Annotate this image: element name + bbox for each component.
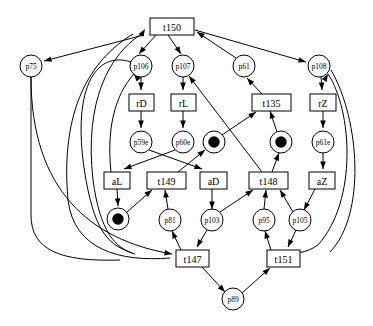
arrowhead [245,190,253,196]
arrowhead [194,164,202,169]
arc-line [44,35,144,61]
token-dot [112,213,123,224]
transition-node-aL[interactable]: aL [104,172,130,189]
transition-node-t148[interactable]: t148 [249,172,288,189]
arc [138,111,144,128]
transition-node-t150[interactable]: t150 [150,18,194,35]
place-label: p61 [238,62,250,71]
place-node-p81[interactable]: p81 [159,209,181,231]
arc [220,190,253,212]
arrowhead [138,83,144,91]
transition-node-t147[interactable]: t147 [176,250,209,267]
place-node-p103[interactable]: p103 [201,209,223,231]
transition-node-aD[interactable]: aD [200,172,227,189]
arrowhead [298,57,306,62]
arc [265,231,271,250]
arc [320,153,326,169]
transition-label: t149 [158,176,176,187]
arc [139,35,156,54]
arc [180,111,186,128]
transition-node-t135[interactable]: t135 [252,94,291,111]
place-node-p106[interactable]: p106 [130,55,152,77]
arc-line [189,76,262,172]
arrowhead [209,202,215,210]
transition-node-rL[interactable]: rL [171,94,196,111]
arrowhead [320,162,326,170]
arrowhead [262,190,268,198]
arrowhead [270,111,275,119]
arc [180,77,186,90]
arrowhead [304,202,310,210]
arrowhead [180,121,186,129]
arrowhead [180,83,186,91]
place-node-p105[interactable]: p105 [289,209,311,231]
transition-label: t147 [184,254,202,265]
place-node[interactable] [270,131,292,153]
arrowhead [320,121,326,129]
nodes-layer: p75p106p107p61p108p59ep60ep61ep81p103p95… [20,18,336,310]
place-label: p60e [176,138,191,147]
arc [222,112,256,135]
arc [44,35,144,62]
place-node-p61[interactable]: p61 [233,55,255,77]
transition-label: rZ [318,98,327,109]
transition-label: aD [208,176,220,187]
arrowhead [115,198,121,206]
place-node[interactable] [107,208,129,230]
arc [124,150,175,169]
arc [31,77,120,260]
transition-node-aZ[interactable]: aZ [309,172,335,189]
transition-label: aZ [317,176,328,187]
petri-net-diagram: p75p106p107p61p108p59ep60ep61ep81p103p95… [0,0,373,326]
place-label: p105 [293,216,308,225]
place-label: p75 [25,62,37,71]
arc [247,78,262,94]
arrowhead [124,164,132,169]
transition-node-t151[interactable]: t151 [267,250,300,267]
arrowhead [163,190,169,198]
place-node-p89[interactable]: p89 [222,288,244,310]
place-node-p107[interactable]: p107 [172,55,194,77]
arc [168,35,181,54]
transition-label: t151 [275,254,293,265]
transition-label: rL [179,98,188,109]
arc [163,190,169,209]
arrowhead [248,112,256,119]
transition-node-rZ[interactable]: rZ [310,94,336,111]
transition-label: t135 [263,98,281,109]
arc [288,230,296,247]
place-node[interactable] [203,131,225,153]
transition-label: t150 [163,22,181,33]
transition-node-rD[interactable]: rD [129,94,154,111]
place-node-p61e[interactable]: p61e [312,131,334,153]
place-node-p60e[interactable]: p60e [172,131,194,153]
arc-line [31,77,120,260]
petri-net-canvas: p75p106p107p61p108p59ep60ep61ep81p103p95… [0,0,373,326]
arrowhead [189,76,196,84]
arrowhead [44,56,52,61]
place-label: p106 [134,62,149,71]
place-label: p103 [205,216,220,225]
arc [127,190,152,212]
arrowhead [288,239,294,247]
transition-label: rD [136,98,147,109]
arc [115,189,121,206]
arrowhead [319,82,325,90]
arc [272,153,279,172]
arc [242,268,270,293]
place-label: p108 [312,62,327,71]
transition-label: aL [112,176,123,187]
place-node-p75[interactable]: p75 [20,55,42,77]
place-label: p107 [176,62,191,71]
token-dot [208,136,219,147]
arc-line [124,150,175,169]
place-label: p95 [258,216,270,225]
arrowhead [164,250,172,256]
transition-node-t149[interactable]: t149 [147,172,186,189]
arrowhead [138,121,144,129]
place-label: p89 [227,295,239,304]
place-node-p95[interactable]: p95 [253,209,275,231]
arrowhead [274,153,279,161]
place-node-p108[interactable]: p108 [308,55,330,77]
place-node-p59e[interactable]: p59e [130,131,152,153]
